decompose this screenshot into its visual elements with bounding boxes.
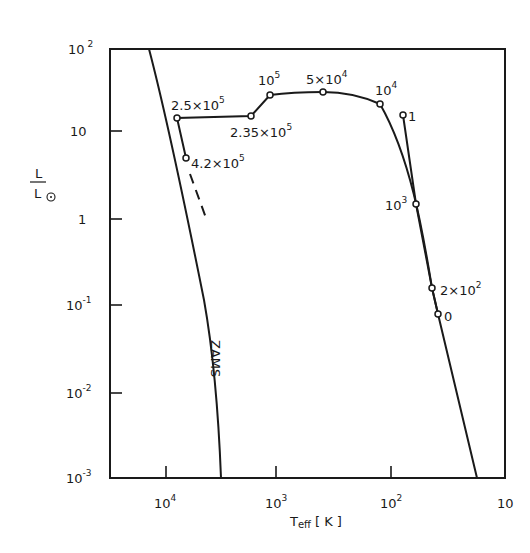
point-1e3 [413, 201, 419, 207]
x-tick-label: 10 [497, 496, 514, 511]
point-2.5e5 [174, 115, 180, 121]
point-1 [400, 112, 406, 118]
zams-label: ZAMS [208, 340, 223, 377]
label-1e3: 103 [385, 195, 407, 213]
x-axis-tick-labels: 104 103 102 10 [154, 493, 514, 511]
y-axis-label: L L [30, 166, 55, 201]
svg-text:L: L [34, 186, 42, 201]
y-axis-tick-labels: 102 10 1 10-1 10-2 10-3 [66, 39, 93, 486]
label-1: 1 [408, 109, 416, 124]
label-0: 0 [444, 309, 452, 324]
y-tick-label: 10-1 [66, 295, 92, 313]
label-2e2: 2×102 [440, 280, 481, 298]
y-tick-label: 10-2 [66, 383, 92, 401]
svg-text:Teff[ K ]: Teff[ K ] [289, 514, 342, 530]
label-5e4: 5×104 [306, 69, 348, 87]
y-tick-label: 102 [68, 39, 93, 57]
dashed-continuation [190, 174, 206, 218]
y-tick-label: 1 [78, 212, 86, 227]
y-axis-ticks [110, 131, 122, 393]
point-0 [435, 311, 441, 317]
y-tick-label: 10-3 [66, 468, 92, 486]
hr-diagram: 102 10 1 10-1 10-2 10-3 104 103 102 10 L… [0, 0, 530, 553]
svg-text:L: L [35, 166, 43, 181]
x-axis-label: Teff[ K ] [289, 514, 342, 530]
plot-frame [110, 49, 505, 478]
x-tick-label: 103 [265, 493, 287, 511]
x-tick-label: 104 [154, 493, 177, 511]
y-tick-label: 10 [70, 124, 87, 139]
track-early-segment [403, 115, 438, 314]
label-2.5e5: 2.5×105 [171, 95, 225, 113]
label-4.2e5: 4.2×105 [191, 153, 245, 171]
point-2e2 [429, 285, 435, 291]
point-5e4 [320, 89, 326, 95]
label-1e4: 104 [375, 80, 398, 98]
point-4.2e5 [183, 155, 189, 161]
zams-curve [149, 49, 221, 478]
label-1e5: 105 [258, 70, 280, 88]
point-1e4 [377, 101, 383, 107]
point-1e5 [267, 92, 273, 98]
x-tick-label: 102 [380, 493, 402, 511]
x-axis-ticks [166, 466, 391, 478]
label-2.35e5: 2.35×105 [230, 122, 292, 140]
point-2.35e5 [248, 113, 254, 119]
